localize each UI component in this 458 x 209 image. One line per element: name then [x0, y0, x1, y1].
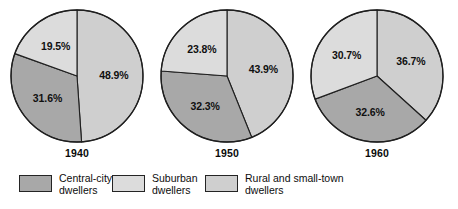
legend-label-line2: dwellers	[245, 185, 344, 197]
legend-swatch-central-city	[19, 175, 52, 192]
legend-label-line2: dwellers	[152, 185, 198, 197]
legend-label-line1: Central-city	[59, 172, 112, 184]
pie-chart-1940: 48.9% 31.6% 19.5% 1940	[2, 0, 152, 165]
pie-chart-1960: 36.7% 32.6% 30.7% 1960	[302, 0, 452, 165]
legend-item-suburban: Suburbandwellers	[112, 172, 198, 196]
legend-label-central-city: Central-citydwellers	[59, 172, 112, 196]
legend-item-central-city: Central-citydwellers	[19, 172, 112, 196]
legend-item-rural-small-town: Rural and small-towndwellers	[205, 172, 344, 196]
pie-charts-row: 48.9% 31.6% 19.5% 1940 43.9% 32.3% 23.8%…	[0, 0, 458, 165]
legend-swatch-suburban	[112, 175, 145, 192]
pie-chart-figure: 48.9% 31.6% 19.5% 1940 43.9% 32.3% 23.8%…	[0, 0, 458, 209]
year-label-1960: 1960	[302, 147, 452, 159]
legend-label-line1: Rural and small-town	[245, 172, 344, 184]
legend-swatch-rural-small-town	[205, 175, 238, 192]
pie-slice	[77, 10, 143, 142]
chart-legend: Central-citydwellers Suburbandwellers Ru…	[0, 170, 458, 202]
pie-svg-1960	[302, 6, 452, 146]
pie-chart-1950: 43.9% 32.3% 23.8% 1950	[152, 0, 302, 165]
pie-svg-1950	[152, 6, 302, 146]
pie-svg-1940	[2, 6, 152, 146]
legend-label-suburban: Suburbandwellers	[152, 172, 198, 196]
legend-label-line1: Suburban	[152, 172, 198, 184]
year-label-1940: 1940	[2, 147, 152, 159]
legend-label-line2: dwellers	[59, 185, 112, 197]
year-label-1950: 1950	[152, 147, 302, 159]
legend-label-rural-small-town: Rural and small-towndwellers	[245, 172, 344, 196]
pie-slice	[161, 10, 227, 76]
